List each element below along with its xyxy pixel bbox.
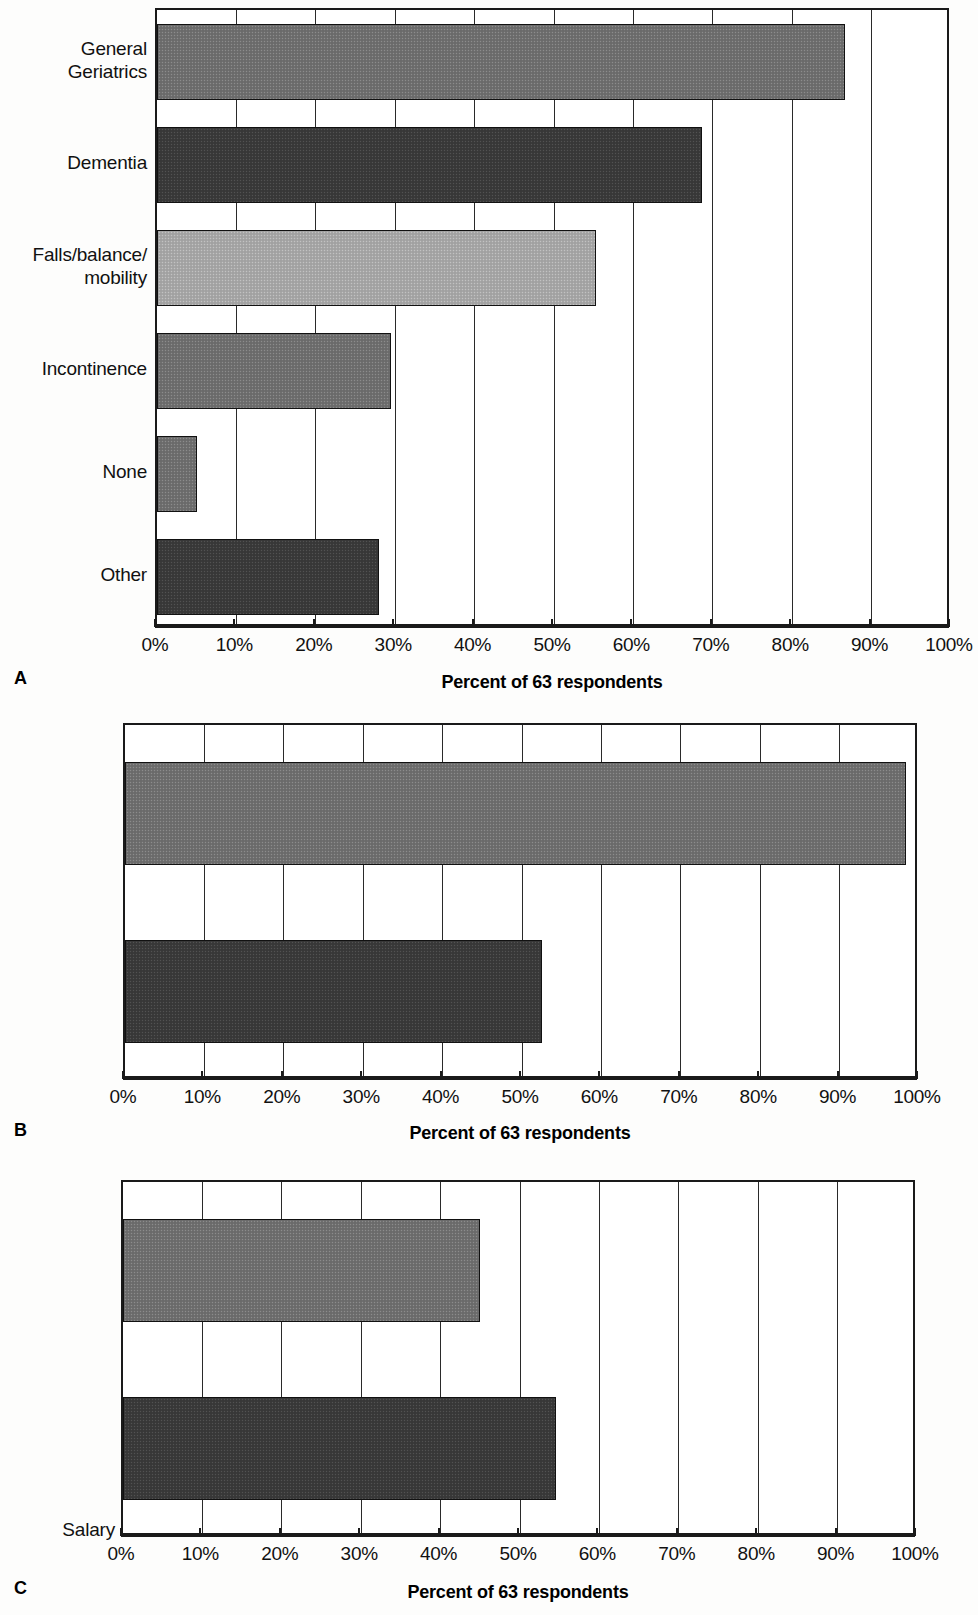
x-tick-label: 40% [420,1543,457,1565]
bars-b [125,725,915,1076]
axis-tick [596,1528,598,1536]
bar [157,230,596,306]
x-tick-label: 20% [263,1086,300,1108]
x-tick-label: 20% [261,1543,298,1565]
axis-tick [438,1528,440,1536]
x-tick-label: 100% [893,1086,940,1108]
x-tick-label: 30% [341,1543,378,1565]
x-tick-label: 100% [891,1543,938,1565]
bar [125,762,906,865]
axis-tick [440,1071,442,1079]
bar [157,539,379,615]
x-tick-label: 100% [925,634,972,656]
axis-tick [199,1528,201,1536]
axis-tick [948,619,950,627]
x-tick-label: 30% [343,1086,380,1108]
plot-area-c [121,1180,915,1535]
x-tick-label: 70% [692,634,729,656]
bar [157,333,391,409]
panel-letter-c: C [14,1578,27,1599]
axis-tick [519,1071,521,1079]
x-tick-label: 90% [817,1543,854,1565]
figure-page: General GeriatricsDementiaFalls/balance/… [0,0,978,1615]
x-tick-label: 50% [499,1543,536,1565]
axis-tick [598,1071,600,1079]
axis-tick [154,619,156,627]
x-tick-label: 50% [533,634,570,656]
axis-tick [358,1528,360,1536]
x-tick-label: 70% [660,1086,697,1108]
category-label: Falls/balance/ mobility [0,243,147,289]
x-tick-label: 0% [142,634,169,656]
category-label: Incontinence [0,357,147,380]
axis-tick [201,1071,203,1079]
x-tick-label: 20% [295,634,332,656]
x-tick-label: 30% [375,634,412,656]
x-tick-label: 80% [738,1543,775,1565]
panel-letter-b: B [14,1120,27,1141]
bar [157,436,197,512]
x-tick-label: 80% [740,1086,777,1108]
axis-tick [122,1071,124,1079]
x-tick-label: 10% [216,634,253,656]
axis-tick [710,619,712,627]
axis-tick [869,619,871,627]
x-tick-label: 10% [184,1086,221,1108]
axis-tick [755,1528,757,1536]
axis-tick [914,1528,916,1536]
x-tick-label: 10% [182,1543,219,1565]
x-tick-label: 90% [851,634,888,656]
plot-area-b [123,723,917,1078]
panel-b: SalaryFee for service 0%10%20%30%40%50%6… [0,718,978,1158]
category-label: Other [0,563,147,586]
axis-title-c: Percent of 63 respondents [121,1582,915,1603]
axis-tick [517,1528,519,1536]
plot-area-a [155,8,949,626]
x-tick-label: 0% [110,1086,137,1108]
axis-tick [360,1071,362,1079]
axis-tick [676,1528,678,1536]
axis-tick [472,619,474,627]
category-label: Dementia [0,151,147,174]
axis-tick [678,1071,680,1079]
axis-tick [120,1528,122,1536]
axis-tick [789,619,791,627]
x-tick-label: 40% [454,634,491,656]
bar [157,127,702,203]
axis-tick [233,619,235,627]
axis-tick [551,619,553,627]
bar [157,24,845,100]
bars-c [123,1182,913,1533]
x-tick-label: 60% [579,1543,616,1565]
axis-tick [835,1528,837,1536]
axis-tick [837,1071,839,1079]
x-tick-label: 40% [422,1086,459,1108]
category-label: None [0,460,147,483]
axis-tick [916,1071,918,1079]
panel-a: General GeriatricsDementiaFalls/balance/… [0,0,978,700]
x-tick-label: 80% [772,634,809,656]
x-tick-label: 50% [501,1086,538,1108]
x-tick-label: 60% [581,1086,618,1108]
axis-tick [279,1528,281,1536]
x-tick-label: 0% [108,1543,135,1565]
axis-tick [313,619,315,627]
bar [125,940,542,1043]
axis-title-a: Percent of 63 respondents [155,672,949,693]
panel-letter-a: A [14,668,27,689]
axis-tick [630,619,632,627]
x-tick-label: 60% [613,634,650,656]
bar [123,1219,480,1322]
axis-tick [392,619,394,627]
panel-c: YesNo 0%10%20%30%40%50%60%70%80%90%100% … [0,1158,978,1615]
bar [123,1397,556,1500]
x-tick-label: 70% [658,1543,695,1565]
axis-title-b: Percent of 63 respondents [123,1123,917,1144]
axis-tick [757,1071,759,1079]
axis-tick [281,1071,283,1079]
x-tick-label: 90% [819,1086,856,1108]
category-label: General Geriatrics [0,37,147,83]
bars-a [157,10,947,624]
